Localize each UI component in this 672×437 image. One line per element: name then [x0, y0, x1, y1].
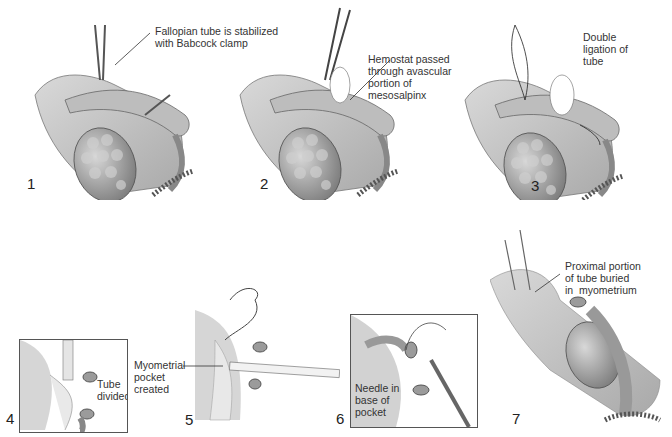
- panel-2: Hemostat passed through avascular portio…: [230, 0, 450, 200]
- panel-5-number: 5: [185, 411, 193, 428]
- panel-3-number: 3: [531, 177, 539, 194]
- panel-1-number: 1: [27, 175, 35, 192]
- panel-4-number: 4: [6, 410, 14, 427]
- panel-6-number: 6: [336, 410, 344, 427]
- panel-6-label: Needle in base of pocket: [355, 382, 399, 418]
- panel-5-label: Myometrial pocket created: [134, 359, 185, 395]
- panel-7-label: Proximal portion of tube buried in myome…: [565, 260, 641, 296]
- panel-4-frame: Tube divided: [19, 339, 128, 433]
- panel-4-label: Tube divided: [97, 378, 128, 402]
- panel-2-label: Hemostat passed through avascular portio…: [368, 53, 451, 101]
- panel-7: Proximal portion of tube buried in myome…: [490, 230, 672, 437]
- panel-7-number: 7: [512, 410, 520, 427]
- panel-2-number: 2: [260, 175, 268, 192]
- panel-6-frame: Needle in base of pocket: [350, 314, 478, 428]
- panel-1: Fallopian tube is stabilized with Babcoc…: [0, 0, 230, 200]
- panel-3-illustration: [450, 0, 672, 200]
- panel-6: Needle in base of pocket 6: [340, 300, 480, 437]
- panel-5: Myometrial pocket created 5: [135, 280, 340, 437]
- panel-4: Tube divided 4: [0, 290, 135, 437]
- panel-3-label: Double ligation of tube: [583, 31, 628, 67]
- panel-3: Double ligation of tube 3: [450, 0, 672, 200]
